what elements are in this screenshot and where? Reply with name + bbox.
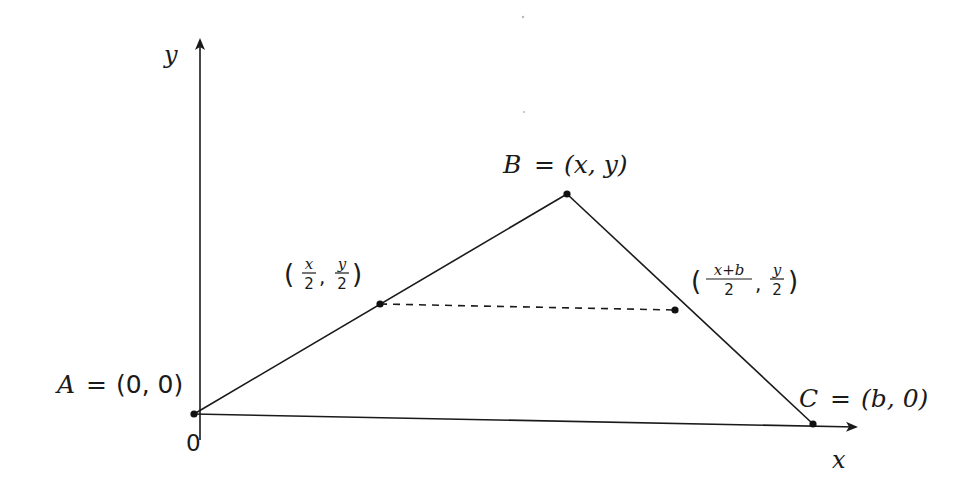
- label-midpoint-bc: ( x+b 2 , y 2 ): [691, 261, 798, 299]
- point-a-equals: =: [86, 370, 107, 399]
- mid-ab-x-numerator: x: [305, 255, 314, 273]
- speck: [523, 111, 525, 113]
- point-b: [563, 190, 570, 197]
- point-a-name: A: [55, 370, 75, 399]
- point-c: [809, 420, 816, 427]
- mid-ab-y-denominator: 2: [337, 275, 347, 293]
- x-axis: [194, 414, 856, 427]
- midline-dashed: [380, 304, 675, 310]
- speck: [522, 16, 524, 18]
- point-a: [190, 410, 197, 417]
- label-point-a: A = (0, 0): [55, 370, 183, 399]
- midpoint-ab: [376, 300, 383, 307]
- point-b-name: B: [502, 150, 521, 179]
- midpoint-bc: [671, 306, 678, 313]
- label-midpoint-ab: ( x 2 , y 2 ): [284, 255, 362, 293]
- mid-ab-close-paren: ): [352, 259, 362, 289]
- mid-bc-y-denominator: 2: [772, 281, 782, 299]
- mid-ab-y-numerator: y: [337, 255, 347, 273]
- mid-ab-comma: ,: [319, 265, 325, 289]
- mid-ab-x-denominator: 2: [304, 275, 314, 293]
- label-point-c: C = (b, 0): [799, 384, 928, 413]
- point-b-coords: (x, y): [564, 150, 628, 179]
- mid-bc-x-denominator: 2: [724, 281, 734, 299]
- origin-label: 0: [186, 430, 201, 456]
- mid-bc-y-numerator: y: [772, 261, 782, 279]
- mid-bc-x-numerator: x+b: [714, 261, 745, 279]
- x-axis-label: x: [832, 446, 846, 474]
- triangle-midpoint-diagram: y x 0 A = (0, 0) B = (x, y) C = (b, 0) (…: [0, 0, 963, 484]
- mid-bc-comma: ,: [755, 272, 761, 296]
- point-c-equals: =: [830, 384, 851, 413]
- point-b-equals: =: [534, 150, 555, 179]
- mid-bc-close-paren: ): [788, 266, 798, 296]
- mid-bc-open-paren: (: [691, 266, 701, 296]
- point-c-coords: (b, 0): [861, 384, 928, 413]
- point-a-coords: (0, 0): [116, 370, 183, 399]
- y-axis-label: y: [163, 41, 178, 69]
- point-c-name: C: [799, 384, 818, 413]
- label-point-b: B = (x, y): [502, 150, 628, 179]
- mid-ab-open-paren: (: [284, 259, 294, 289]
